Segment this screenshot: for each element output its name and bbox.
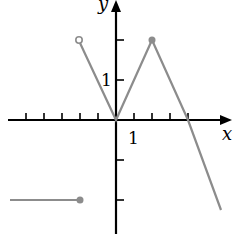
closed-dot-peak-marker xyxy=(149,37,156,44)
y-axis-arrow-icon xyxy=(111,0,121,12)
v-curve xyxy=(80,40,221,210)
graph-canvas: y x 1 1 xyxy=(0,0,238,234)
x-axis-label: x xyxy=(222,123,232,144)
y-axis-label: y xyxy=(97,0,109,14)
x-tick-label-1: 1 xyxy=(128,128,139,148)
closed-dot-bottom-marker xyxy=(77,197,84,204)
y-tick-label-1: 1 xyxy=(101,70,112,90)
open-dot-marker xyxy=(76,37,82,43)
